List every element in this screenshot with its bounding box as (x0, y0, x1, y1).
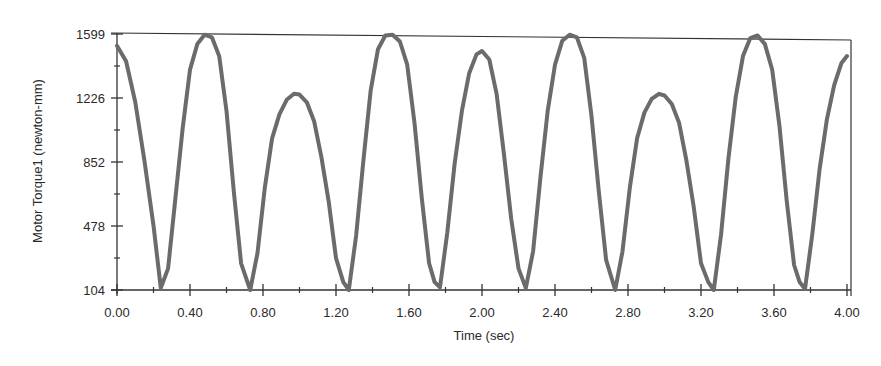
x-tick-label: 2.80 (615, 305, 640, 320)
y-tick-label: 104 (83, 283, 105, 298)
y-axis: 10447885212261599 (76, 27, 123, 298)
x-tick-label: 2.00 (469, 305, 494, 320)
x-tick-label: 4.00 (834, 305, 859, 320)
x-tick-label: 1.20 (323, 305, 348, 320)
top-border (111, 33, 851, 40)
y-tick-label: 852 (83, 155, 105, 170)
y-tick-label: 1599 (76, 27, 105, 42)
x-tick-label: 0.00 (104, 305, 129, 320)
y-tick-label: 478 (83, 219, 105, 234)
x-tick-label: 2.40 (542, 305, 567, 320)
motor-torque-line (117, 35, 847, 290)
torque-line-chart: 10447885212261599 0.000.400.801.201.602.… (0, 0, 881, 366)
x-tick-label: 0.40 (177, 305, 202, 320)
x-tick-label: 3.20 (688, 305, 713, 320)
x-axis-title: Time (sec) (454, 328, 515, 343)
x-tick-label: 3.60 (761, 305, 786, 320)
x-tick-label: 1.60 (396, 305, 421, 320)
y-tick-label: 1226 (76, 91, 105, 106)
y-axis-title: Motor Torque1 (newton-mm) (30, 79, 45, 243)
x-tick-label: 0.80 (250, 305, 275, 320)
